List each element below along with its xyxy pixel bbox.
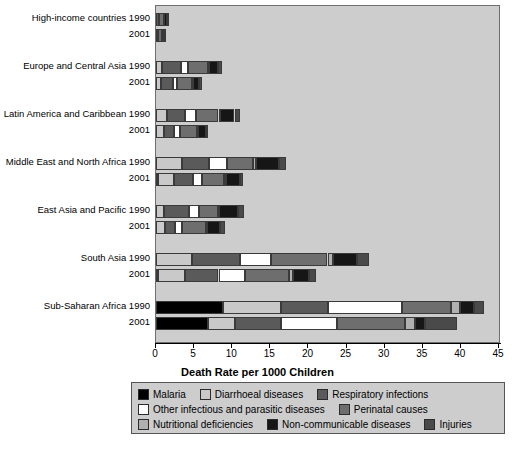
legend-swatch-icon	[138, 389, 149, 400]
category-label-middle-east-and-north-africa-2001: 2001	[129, 173, 150, 183]
bar-segment-injuries	[425, 317, 457, 330]
legend-label: Perinatal causes	[354, 404, 428, 415]
bar-segment-other-infectious-and-parasitic-diseases	[281, 317, 337, 330]
legend-item-nutritional-deficiencies[interactable]: Nutritional deficiencies	[138, 419, 253, 430]
bar-segment-diarrhoeal-diseases	[156, 205, 164, 218]
bar-segment-injuries	[357, 253, 369, 266]
bar-segment-diarrhoeal-diseases	[156, 221, 165, 234]
bar-segment-perinatal-causes	[182, 221, 206, 234]
bar-segment-non-communicable-diseases	[198, 125, 206, 138]
bar-segment-respiratory-infections	[281, 301, 328, 314]
legend-swatch-icon	[424, 419, 435, 430]
bar-segment-perinatal-causes	[188, 61, 208, 74]
bar-segment-other-infectious-and-parasitic-diseases	[193, 173, 202, 186]
bar-segment-other-infectious-and-parasitic-diseases	[185, 109, 196, 122]
bar-segment-respiratory-infections	[161, 77, 173, 90]
category-label-europe-and-central-asia-2001: 2001	[129, 77, 150, 87]
bar-segment-other-infectious-and-parasitic-diseases	[209, 157, 227, 170]
bar-segment-perinatal-causes	[271, 253, 327, 266]
x-tick-label-30: 30	[378, 348, 389, 359]
legend-label: Non-communicable diseases	[282, 419, 410, 430]
x-tick-label-15: 15	[264, 348, 275, 359]
bar-segment-non-communicable-diseases	[460, 301, 474, 314]
bar-latin-america-and-caribbean-1990	[156, 109, 240, 122]
bar-segment-diarrhoeal-diseases	[208, 317, 235, 330]
bar-segment-injuries	[167, 13, 169, 26]
bar-segment-diarrhoeal-diseases	[156, 109, 167, 122]
chart-root: High-income countries 19902001Europe and…	[0, 0, 515, 453]
legend-label: Other infectious and parasitic diseases	[153, 404, 325, 415]
bar-segment-malaria	[156, 301, 223, 314]
legend-label: Diarrhoeal diseases	[215, 389, 303, 400]
bar-segment-perinatal-causes	[402, 301, 451, 314]
bar-segment-other-infectious-and-parasitic-diseases	[189, 205, 199, 218]
bar-segment-injuries	[474, 301, 484, 314]
bar-east-asia-and-pacific-1990	[156, 205, 244, 218]
legend-item-non-communicable-diseases[interactable]: Non-communicable diseases	[267, 419, 410, 430]
bar-segment-respiratory-infections	[162, 61, 181, 74]
bar-segment-other-infectious-and-parasitic-diseases	[175, 221, 182, 234]
bar-segment-respiratory-infections	[182, 157, 209, 170]
legend-label: Malaria	[153, 389, 186, 400]
bar-segment-non-communicable-diseases	[333, 253, 357, 266]
bar-segment-respiratory-infections	[192, 253, 240, 266]
bar-segment-respiratory-infections	[174, 173, 192, 186]
bar-segment-other-infectious-and-parasitic-diseases	[328, 301, 402, 314]
x-tick-label-40: 40	[454, 348, 465, 359]
x-axis-title: Death Rate per 1000 Children	[0, 366, 515, 378]
x-tick-label-25: 25	[340, 348, 351, 359]
bar-sub-saharan-africa-2001	[156, 317, 457, 330]
bar-segment-injuries	[240, 173, 243, 186]
bar-segment-injuries	[238, 205, 244, 218]
bar-segment-non-communicable-diseases	[209, 61, 218, 74]
bar-segment-non-communicable-diseases	[226, 173, 240, 186]
bar-latin-america-and-caribbean-2001	[156, 125, 208, 138]
legend-item-injuries[interactable]: Injuries	[424, 419, 471, 430]
bar-segment-non-communicable-diseases	[207, 221, 220, 234]
bar-segment-non-communicable-diseases	[256, 157, 280, 170]
legend-item-respiratory-infections[interactable]: Respiratory infections	[317, 389, 428, 400]
legend-swatch-icon	[317, 389, 328, 400]
bar-segment-malaria	[156, 317, 208, 330]
bar-segment-injuries	[199, 77, 201, 90]
legend-item-malaria[interactable]: Malaria	[138, 389, 186, 400]
category-label-middle-east-and-north-africa-1990: Middle East and North Africa 1990	[6, 157, 150, 167]
bar-segment-diarrhoeal-diseases	[158, 173, 175, 186]
bar-segment-perinatal-causes	[199, 205, 218, 218]
bar-segment-perinatal-causes	[202, 173, 224, 186]
bar-sub-saharan-africa-1990	[156, 301, 484, 314]
category-label-east-asia-and-pacific-2001: 2001	[129, 221, 150, 231]
category-label-high-income-countries-1990: High-income countries 1990	[32, 13, 150, 23]
x-axis: 051015202530354045	[155, 343, 500, 365]
bar-segment-injuries	[220, 221, 225, 234]
bar-segment-diarrhoeal-diseases	[156, 125, 164, 138]
bar-south-asia-2001	[156, 269, 316, 282]
legend-swatch-icon	[138, 419, 149, 430]
category-label-latin-america-and-caribbean-2001: 2001	[129, 125, 150, 135]
bar-europe-and-central-asia-1990	[156, 61, 222, 74]
bars-layer	[156, 6, 499, 342]
category-axis-labels: High-income countries 19902001Europe and…	[0, 5, 150, 343]
legend-item-other-infectious-and-parasitic-diseases[interactable]: Other infectious and parasitic diseases	[138, 404, 325, 415]
bar-segment-respiratory-infections	[185, 269, 219, 282]
bar-high-income-countries-2001	[156, 29, 165, 42]
bar-segment-non-communicable-diseases	[293, 269, 309, 282]
bar-segment-diarrhoeal-diseases	[156, 253, 192, 266]
legend-row-1: MalariaDiarrhoeal diseasesRespiratory in…	[138, 387, 498, 402]
bar-segment-perinatal-causes	[245, 269, 289, 282]
bar-segment-perinatal-causes	[177, 77, 191, 90]
legend-label: Respiratory infections	[332, 389, 428, 400]
bar-segment-other-infectious-and-parasitic-diseases	[240, 253, 271, 266]
bar-segment-injuries	[279, 157, 285, 170]
category-label-sub-saharan-africa-1990: Sub-Saharan Africa 1990	[44, 301, 150, 311]
bar-segment-other-infectious-and-parasitic-diseases	[181, 61, 188, 74]
legend-item-perinatal-causes[interactable]: Perinatal causes	[339, 404, 428, 415]
bar-segment-injuries	[309, 269, 316, 282]
bar-segment-perinatal-causes	[337, 317, 406, 330]
bar-middle-east-and-north-africa-2001	[156, 173, 243, 186]
bar-segment-non-communicable-diseases	[219, 205, 238, 218]
legend-row-3: Nutritional deficienciesNon-communicable…	[138, 417, 498, 432]
legend-swatch-icon	[339, 404, 350, 415]
bar-segment-non-communicable-diseases	[415, 317, 425, 330]
legend-item-diarrhoeal-diseases[interactable]: Diarrhoeal diseases	[200, 389, 303, 400]
